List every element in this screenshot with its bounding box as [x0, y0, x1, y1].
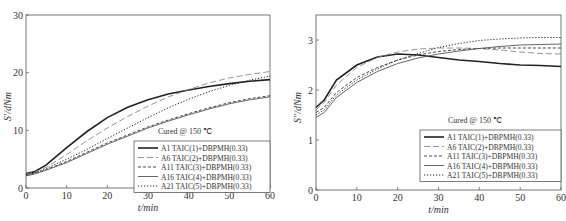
y-axis-label: S'/dNm [2, 92, 13, 121]
legend-label: A6 TAIC(2)+DBPMH(0.33) [447, 143, 534, 152]
chart-storage-modulus: 01020304050600102030t/minS'/dNmCured @ 1… [2, 10, 275, 214]
cure-annotation: Cured @ 150 ℃ [158, 127, 212, 136]
x-tick-label: 50 [515, 192, 525, 203]
cure-annotation: Cured @ 150 ℃ [448, 116, 502, 125]
legend-label: A11 TAIC(3)+DBPMH(0.33) [161, 163, 252, 172]
y-axis-label: S''/dNm [292, 92, 303, 123]
series-line [316, 44, 561, 118]
x-tick-label: 20 [393, 192, 403, 203]
legend-label: A11 TAIC(3)+DBPMH(0.33) [447, 152, 538, 161]
figure: 01020304050600102030t/minS'/dNmCured @ 1… [0, 0, 566, 221]
y-tick-label: 3 [308, 35, 313, 46]
x-axis-label: t/min [138, 202, 159, 213]
x-tick-label: 10 [62, 190, 72, 201]
x-tick-label: 40 [474, 192, 484, 203]
x-tick-label: 0 [24, 190, 29, 201]
y-tick-label: 20 [13, 67, 23, 78]
legend-label: A16 TAIC(4)+DBPMH(0.33) [161, 173, 252, 182]
x-tick-label: 10 [352, 192, 362, 203]
y-tick-label: 1 [308, 135, 313, 146]
y-tick-label: 2 [308, 85, 313, 96]
legend-label: A6 TAIC(2)+DBPMH(0.33) [161, 154, 248, 163]
y-tick-label: 10 [13, 125, 23, 136]
chart-loss-modulus: 01020304050600123t/minS''/dNmCured @ 150… [292, 15, 566, 215]
x-tick-label: 30 [434, 192, 444, 203]
y-tick-label: 0 [308, 185, 313, 196]
y-tick-label: 30 [13, 10, 23, 21]
x-tick-label: 20 [102, 190, 112, 201]
x-tick-label: 0 [314, 192, 319, 203]
legend-label: A21 TAIC(5)+DBPMH(0.33) [161, 182, 252, 191]
legend-label: A16 TAIC(4)+DBPMH(0.33) [447, 162, 538, 171]
legend-label: A1 TAIC(1)+DBPMH(0.33) [447, 133, 534, 142]
x-axis-label: t/min [428, 204, 449, 215]
legend-label: A1 TAIC(1)+DBPMH(0.33) [161, 144, 248, 153]
series-line [316, 54, 561, 108]
y-tick-label: 0 [18, 183, 23, 194]
series-line [316, 38, 561, 116]
x-tick-label: 60 [556, 192, 566, 203]
legend-label: A21 TAIC(5)+DBPMH(0.33) [447, 171, 538, 180]
